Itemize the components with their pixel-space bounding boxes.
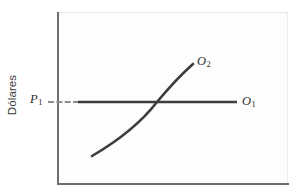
y-axis-title: Dólares [6,55,18,135]
price-guide-dashed-line [48,101,79,103]
supply-curve-figure: Dólares P1 O2 O1 [0,0,301,196]
curve-label-o2-subscript: 2 [207,59,211,69]
price-label-subscript: 1 [38,97,42,107]
curve-label-o1-text: O [242,94,251,108]
price-label-text: P [30,92,38,106]
curve-label-o2: O2 [197,54,210,69]
curve-label-o1: O1 [242,94,255,109]
price-axis-label: P1 [30,92,42,107]
curve-label-o2-text: O [197,54,206,68]
y-axis-line [57,12,59,185]
curve-label-o1-subscript: 1 [252,99,256,109]
x-axis-line [57,183,289,185]
